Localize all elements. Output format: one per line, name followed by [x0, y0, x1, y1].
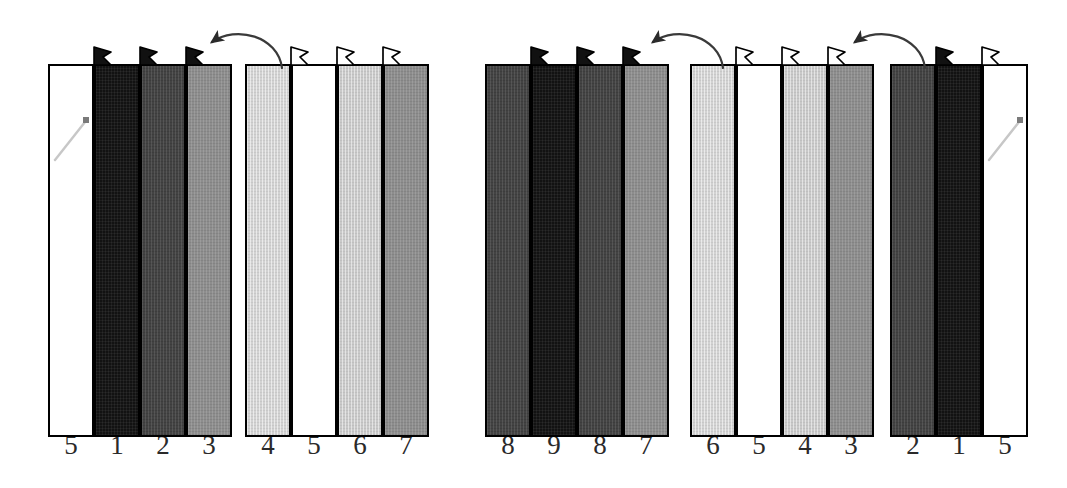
bar-g2-b1[interactable] — [245, 64, 291, 437]
tab-flag-white-icon — [381, 46, 403, 66]
bar-g1-b1[interactable] — [48, 64, 94, 437]
bar-g3-b3[interactable] — [577, 64, 623, 437]
bar-g3-b2[interactable] — [531, 64, 577, 437]
bar-g4-b1[interactable] — [690, 64, 736, 437]
bar-g2-b3[interactable] — [337, 64, 383, 437]
bar-slot — [245, 64, 291, 437]
bar-g1-b4[interactable] — [186, 64, 232, 437]
tab-flag-white-icon — [826, 46, 848, 66]
tab-flag-white-icon — [980, 46, 1002, 66]
bar-g4-b3[interactable] — [782, 64, 828, 437]
bar-slot — [531, 64, 577, 437]
tab-flag-white-icon — [289, 46, 311, 66]
bar-slot — [828, 64, 874, 437]
bar-slot — [485, 64, 531, 437]
bar-g2-b4[interactable] — [383, 64, 429, 437]
bar-slot — [291, 64, 337, 437]
bar-slot — [736, 64, 782, 437]
bar-slot — [890, 64, 936, 437]
rotation-arrow-2 — [653, 34, 723, 68]
tab-flag-dark-icon — [184, 46, 206, 66]
bar-slot — [936, 64, 982, 437]
bar-g5-b2[interactable] — [936, 64, 982, 437]
tab-flag-white-icon — [780, 46, 802, 66]
bar-g3-b4[interactable] — [623, 64, 669, 437]
bar-slot — [982, 64, 1028, 437]
bar-g3-b1[interactable] — [485, 64, 531, 437]
figure-canvas: 5 1 2 3 — [0, 0, 1067, 488]
bar-g1-b3[interactable] — [140, 64, 186, 437]
bar-g2-b2[interactable] — [291, 64, 337, 437]
bar-g5-b1[interactable] — [890, 64, 936, 437]
tab-flag-dark-icon — [621, 46, 643, 66]
bar-slot — [577, 64, 623, 437]
bar-slot — [337, 64, 383, 437]
tab-flag-white-icon — [734, 46, 756, 66]
tab-flag-dark-icon — [575, 46, 597, 66]
tab-flag-dark-icon — [92, 46, 114, 66]
rotation-arrow-1 — [212, 34, 282, 68]
bar-slot — [383, 64, 429, 437]
tab-flag-white-icon — [335, 46, 357, 66]
bar-slot — [94, 64, 140, 437]
bar-slot — [186, 64, 232, 437]
bar-slot — [782, 64, 828, 437]
bar-slot — [623, 64, 669, 437]
bar-slot — [140, 64, 186, 437]
rotation-arrow-3 — [855, 34, 925, 68]
bar-g5-b3[interactable] — [982, 64, 1028, 437]
tab-flag-dark-icon — [138, 46, 160, 66]
tab-flag-dark-icon — [934, 46, 956, 66]
bar-g4-b2[interactable] — [736, 64, 782, 437]
bar-slot — [48, 64, 94, 437]
bar-slot — [690, 64, 736, 437]
bar-g1-b2[interactable] — [94, 64, 140, 437]
tab-flag-dark-icon — [529, 46, 551, 66]
bar-g4-b4[interactable] — [828, 64, 874, 437]
